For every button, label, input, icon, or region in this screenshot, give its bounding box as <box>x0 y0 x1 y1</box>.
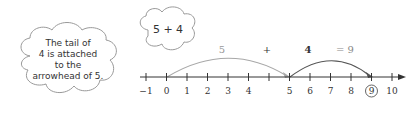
number-line-diagram: The tail of 4 is attached to the arrowhe… <box>0 0 410 115</box>
thought-bubble-note: The tail of 4 is attached to the arrowhe… <box>21 23 116 93</box>
result-label: = 9 <box>336 44 354 55</box>
tick-label: 6 <box>307 86 313 96</box>
note-line-4: arrowhead of 5. <box>33 71 104 81</box>
thought-bubble-expression: 5 + 4 <box>140 7 195 50</box>
jump-label-5: 5 <box>219 44 225 55</box>
note-line-3: to the <box>55 60 82 70</box>
tick-label: 5 <box>287 86 293 96</box>
tick-label: 2 <box>205 86 211 96</box>
tick-label: −1 <box>139 86 152 96</box>
tick-label-circled: 9 <box>369 86 375 96</box>
jump-label-4: 4 <box>305 44 312 55</box>
tick-labels: −1 0 1 2 3 4 5 6 7 8 9 10 <box>139 86 398 96</box>
tick-label: 0 <box>164 86 170 96</box>
tick-label: 7 <box>328 86 334 96</box>
tick-label: 3 <box>225 86 231 96</box>
note-line-1: The tail of <box>44 38 91 48</box>
expression-text: 5 + 4 <box>153 23 183 36</box>
plus-sign: + <box>263 44 271 55</box>
tick-label: 8 <box>348 86 354 96</box>
tick-label: 1 <box>184 86 190 96</box>
axis-arrow-icon <box>398 74 406 80</box>
note-line-2: 4 is attached <box>39 49 98 59</box>
tick-label: 10 <box>386 86 398 96</box>
tick-label: 4 <box>246 86 252 96</box>
